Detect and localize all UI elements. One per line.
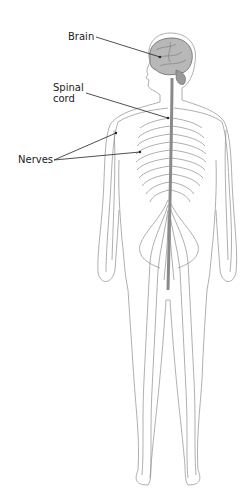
spinal-cord-label: Spinal cord bbox=[53, 82, 84, 104]
spinal-cord-label-line1: Spinal bbox=[53, 82, 84, 93]
brain-label: Brain bbox=[68, 31, 94, 42]
brain-leader-line bbox=[96, 37, 160, 57]
spinal-cord bbox=[168, 78, 172, 290]
nerves bbox=[106, 108, 232, 478]
nerves-leader-line-2 bbox=[54, 152, 140, 160]
nerves-label: Nerves bbox=[18, 154, 53, 165]
brain-illustration bbox=[150, 38, 193, 85]
nervous-system-figure bbox=[0, 0, 245, 503]
nerves-leader-line-1 bbox=[54, 133, 116, 160]
spinal-cord-label-line2: cord bbox=[53, 93, 84, 104]
spinal-cord-leader-line bbox=[86, 93, 168, 118]
